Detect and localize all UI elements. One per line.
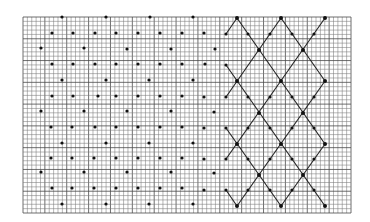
lattice-point: [125, 47, 128, 50]
lattice-point: [158, 31, 161, 34]
lattice-point: [93, 125, 96, 128]
lattice-point: [60, 202, 63, 205]
lattice-point: [224, 32, 227, 35]
lattice-point: [224, 95, 227, 98]
lattice-point: [312, 95, 315, 98]
lattice-point: [82, 46, 85, 49]
lattice-point: [39, 46, 42, 49]
lattice-point: [268, 95, 271, 98]
lattice-point: [60, 141, 63, 144]
lattice-point: [104, 202, 107, 205]
lattice-point: [147, 78, 150, 81]
lattice-point: [147, 202, 150, 205]
lattice-point: [114, 125, 117, 128]
lattice-point: [50, 62, 53, 65]
lattice-point: [136, 156, 139, 159]
lattice-point: [191, 202, 194, 205]
lattice-point: [39, 170, 42, 173]
lattice-point: [70, 186, 73, 189]
lattice-point: [60, 15, 63, 18]
lattice-point: [290, 95, 293, 98]
lattice-point: [50, 186, 53, 189]
net-vertex: [279, 79, 283, 83]
lattice-point: [136, 31, 139, 34]
net-vertex: [257, 48, 261, 52]
net-vertex: [301, 48, 305, 52]
net-vertex: [323, 16, 327, 20]
lattice-point: [104, 15, 107, 18]
net-vertex: [301, 173, 305, 177]
lattice-point: [212, 171, 215, 174]
lattice-point: [125, 109, 128, 112]
lattice-point: [125, 170, 128, 173]
net-vertex: [235, 79, 239, 83]
lattice-point: [82, 109, 85, 112]
lattice-point: [312, 157, 315, 160]
lattice-point: [136, 62, 139, 65]
lattice-point: [246, 188, 249, 191]
lattice-point: [202, 157, 205, 160]
net-vertex: [235, 204, 239, 208]
net-vertex: [323, 204, 327, 208]
lattice-point: [202, 188, 205, 191]
lattice-point: [104, 78, 107, 81]
net-vertex: [257, 173, 261, 177]
lattice-point: [212, 110, 215, 113]
lattice-point: [246, 95, 249, 98]
lattice-point: [50, 31, 53, 34]
lattice-point: [224, 188, 227, 191]
lattice-point: [114, 31, 117, 34]
lattice-point: [158, 62, 161, 65]
lattice-point: [268, 157, 271, 160]
net-vertex: [279, 16, 283, 20]
lattice-point: [268, 188, 271, 191]
lattice-point: [268, 32, 271, 35]
lattice-point: [224, 126, 227, 129]
lattice-point: [93, 62, 96, 65]
lattice-point: [246, 32, 249, 35]
lattice-point: [224, 157, 227, 160]
net-vertex: [323, 142, 327, 146]
lattice-point: [136, 94, 139, 97]
lattice-point: [158, 94, 161, 97]
net-vertex: [235, 142, 239, 146]
lattice-point: [71, 94, 74, 97]
lattice-point: [158, 156, 161, 159]
lattice-point: [202, 126, 205, 129]
lattice-point: [224, 63, 227, 66]
lattice-point: [49, 125, 52, 128]
lattice-point: [191, 78, 194, 81]
lattice-point: [114, 94, 117, 97]
lattice-point: [213, 47, 216, 50]
net-vertex: [279, 204, 283, 208]
lattice-point: [104, 141, 107, 144]
lattice-point: [290, 32, 293, 35]
lattice-point: [246, 157, 249, 160]
lattice-point: [158, 125, 161, 128]
lattice-point: [114, 186, 117, 189]
lattice-point: [71, 62, 74, 65]
lattice-point: [114, 62, 117, 65]
lattice-point: [70, 156, 73, 159]
lattice-point: [268, 126, 271, 129]
lattice-point: [312, 126, 315, 129]
lattice-point: [312, 188, 315, 191]
lattice-point: [136, 186, 139, 189]
lattice-point: [203, 62, 206, 65]
lattice-point: [60, 78, 63, 81]
lattice-point: [180, 186, 183, 189]
lattice-point: [312, 32, 315, 35]
net-vertex: [301, 111, 305, 115]
lattice-point: [92, 156, 95, 159]
lattice-point: [39, 109, 42, 112]
lattice-point: [96, 94, 99, 97]
lattice-point: [70, 125, 73, 128]
net-vertex: [235, 16, 239, 20]
lattice-svg: [0, 0, 370, 222]
lattice-point: [158, 186, 161, 189]
lattice-point: [169, 170, 172, 173]
lattice-point: [290, 126, 293, 129]
lattice-point: [169, 47, 172, 50]
lattice-point: [246, 126, 249, 129]
lattice-point: [290, 188, 293, 191]
